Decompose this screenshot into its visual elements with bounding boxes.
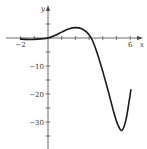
tick-labels: −26−10−20−30	[15, 41, 133, 127]
y-axis-arrow-icon	[46, 5, 50, 11]
chart: −26−10−20−30 x y	[0, 0, 147, 149]
axes	[6, 5, 143, 149]
plot-area: −26−10−20−30 x y	[0, 0, 147, 149]
x-axis-arrow-icon	[137, 36, 143, 40]
y-tick-label: −30	[29, 119, 44, 127]
y-tick-label: −10	[29, 63, 44, 71]
y-tick-label: −20	[29, 91, 44, 99]
x-axis-label: x	[140, 41, 144, 49]
x-tick-label: 6	[128, 41, 133, 49]
x-tick-label: −2	[15, 41, 25, 49]
y-axis-label: y	[40, 5, 46, 13]
data-curve	[21, 28, 131, 131]
